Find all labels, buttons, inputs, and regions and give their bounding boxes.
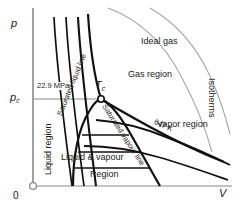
gas-region-label: Gas region [128, 70, 172, 79]
liquid-region-label: Liquid region [44, 123, 53, 175]
isotherms-label: Isotherms [207, 78, 216, 118]
origin-marker [30, 183, 37, 190]
diagram-canvas [0, 0, 240, 216]
ideal-gas-region-label: Ideal gas [141, 37, 178, 46]
pc-subscript: c [16, 97, 20, 104]
tc-symbol: T [95, 79, 102, 91]
two-phase-region-label-line1: Liquid & vapour [61, 153, 124, 162]
origin-label: 0 [13, 191, 19, 201]
x-axis-label: V [219, 188, 226, 199]
critical-pressure-axis-label: pc [10, 92, 20, 104]
critical-point-marker [98, 96, 104, 102]
tc-subscript: c [102, 85, 106, 92]
two-phase-region-label-line2: Region [90, 170, 119, 179]
critical-point-label: Tc [95, 80, 105, 92]
y-axis-label: p [11, 18, 17, 29]
pv-phase-diagram: p V 0 pc 22.9 MPa Tc Ideal gas Gas regio… [0, 0, 240, 216]
